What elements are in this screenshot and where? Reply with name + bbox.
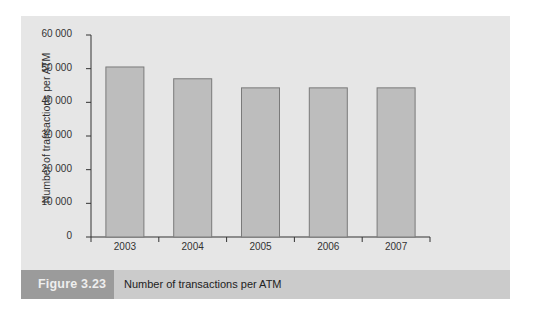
bar-2006 — [309, 88, 347, 237]
x-tick-label: 2005 — [227, 241, 295, 252]
x-tick-label: 2006 — [294, 241, 362, 252]
bar-2005 — [242, 88, 280, 237]
figure-label: Figure 3.23 — [21, 270, 114, 299]
figure-caption: Figure 3.23 Number of transactions per A… — [21, 270, 510, 299]
bar-2003 — [106, 67, 144, 237]
bar-2007 — [377, 88, 415, 237]
x-tick-label: 2003 — [91, 241, 159, 252]
bar-2004 — [174, 79, 212, 237]
x-tick-label: 2004 — [159, 241, 227, 252]
figure-title: Number of transactions per ATM — [124, 270, 282, 299]
x-tick-label: 2007 — [362, 241, 430, 252]
